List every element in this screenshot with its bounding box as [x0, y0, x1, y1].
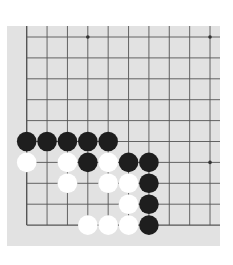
- white-stone[interactable]: [119, 215, 139, 235]
- black-stone[interactable]: [119, 153, 139, 173]
- white-stone[interactable]: [98, 174, 118, 194]
- black-stone[interactable]: [139, 174, 159, 194]
- black-stone[interactable]: [139, 194, 159, 214]
- white-stone[interactable]: [58, 174, 78, 194]
- black-stone[interactable]: [78, 132, 98, 152]
- white-stone[interactable]: [58, 153, 78, 173]
- white-stone[interactable]: [119, 174, 139, 194]
- star-point-icon: [86, 35, 90, 39]
- black-stone[interactable]: [78, 153, 98, 173]
- star-point-icon: [208, 161, 212, 165]
- black-stone[interactable]: [98, 132, 118, 152]
- black-stone[interactable]: [58, 132, 78, 152]
- white-stone[interactable]: [17, 153, 37, 173]
- white-stone[interactable]: [78, 215, 98, 235]
- black-stone[interactable]: [37, 132, 57, 152]
- go-board-grid[interactable]: [0, 0, 233, 265]
- black-stone[interactable]: [139, 215, 159, 235]
- black-stone[interactable]: [139, 153, 159, 173]
- star-point-icon: [208, 35, 212, 39]
- white-stone[interactable]: [119, 194, 139, 214]
- white-stone[interactable]: [98, 153, 118, 173]
- white-stone[interactable]: [98, 215, 118, 235]
- black-stone[interactable]: [17, 132, 37, 152]
